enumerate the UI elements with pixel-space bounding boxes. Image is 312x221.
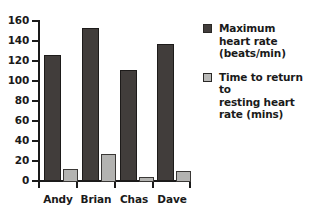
y-tick-120 (32, 60, 39, 62)
bar-recovery-brian (101, 154, 116, 182)
y-tick-label-20: 20 (3, 155, 29, 165)
x-tick-label-andy: Andy (41, 193, 75, 205)
legend-label-maximum-line-3: (beats/min) (219, 47, 312, 60)
x-tick-label-chas: Chas (116, 193, 152, 205)
legend-swatch-icon-recovery (203, 73, 212, 82)
x-tick-2 (114, 182, 116, 188)
y-tick-label-120: 120 (3, 55, 29, 65)
bar-recovery-andy (63, 169, 78, 182)
bar-max-andy (44, 55, 61, 181)
bar-max-chas (120, 70, 137, 181)
legend-label-recovery-line-2: resting heart (219, 96, 312, 109)
x-tick-label-dave: Dave (154, 193, 190, 205)
legend-label-recovery-line-3: rate (mins) (219, 108, 312, 121)
x-tick-label-brian: Brian (78, 193, 114, 205)
bar-chart: 160 140 120 100 80 60 40 20 0 Andy Brian… (0, 0, 312, 221)
legend-entry-maximum-heart-rate: Maximum heart rate (beats/min) (203, 22, 312, 60)
y-tick-label-0: 0 (3, 175, 29, 185)
bar-recovery-chas (139, 177, 154, 182)
y-tick-40 (32, 140, 39, 142)
y-tick-140 (32, 40, 39, 42)
y-tick-label-60: 60 (3, 115, 29, 125)
x-tick-0 (38, 182, 40, 188)
plot-area: 160 140 120 100 80 60 40 20 0 Andy Brian… (0, 0, 200, 221)
x-tick-3 (152, 182, 154, 188)
y-tick-label-80: 80 (3, 95, 29, 105)
y-tick-label-140: 140 (3, 35, 29, 45)
legend-label-recovery-line-1: Time to return to (219, 71, 312, 96)
y-tick-label-100: 100 (3, 75, 29, 85)
legend-label-maximum-line-2: heart rate (219, 35, 312, 48)
legend-label-recovery: Time to return to resting heart rate (mi… (219, 71, 312, 121)
bar-recovery-dave (176, 171, 191, 182)
y-tick-160 (32, 20, 39, 22)
x-tick-4 (189, 182, 191, 188)
chart-legend: Maximum heart rate (beats/min) Time to r… (203, 22, 312, 132)
y-tick-80 (32, 100, 39, 102)
y-tick-20 (32, 160, 39, 162)
y-tick-100 (32, 80, 39, 82)
legend-swatch-icon-maximum (203, 24, 212, 33)
bar-max-dave (157, 44, 174, 181)
y-tick-60 (32, 120, 39, 122)
legend-label-maximum: Maximum heart rate (beats/min) (219, 22, 312, 60)
y-tick-label-40: 40 (3, 135, 29, 145)
x-tick-1 (76, 182, 78, 188)
bar-max-brian (82, 28, 99, 181)
legend-entry-time-to-return: Time to return to resting heart rate (mi… (203, 71, 312, 121)
y-tick-label-160: 160 (3, 15, 29, 25)
legend-label-maximum-line-1: Maximum (219, 22, 312, 35)
